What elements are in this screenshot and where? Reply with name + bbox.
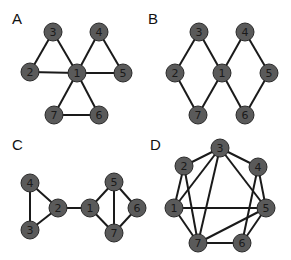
graph-node: 2 (175, 157, 193, 175)
graph-node: 5 (257, 199, 275, 217)
node-label: 6 (134, 202, 141, 215)
graph-node: 3 (211, 139, 229, 157)
graph-node: 2 (166, 64, 184, 82)
node-label: 1 (171, 202, 178, 215)
panel-label: D (150, 136, 161, 153)
node-label: 4 (242, 26, 249, 39)
graph-node: 1 (81, 199, 99, 217)
node-label: 6 (96, 109, 103, 122)
graph-node: 7 (189, 234, 207, 252)
graph-node: 3 (44, 23, 62, 41)
graph-node: 2 (49, 199, 67, 217)
graph-node: 6 (233, 234, 251, 252)
graph-node: 2 (21, 63, 39, 81)
graph-diagram-canvas: A1234567 B1234567 C1234567 D1234567 (0, 0, 291, 260)
node-label: 5 (120, 67, 127, 80)
node-label: 3 (50, 26, 57, 39)
graph-node: 6 (236, 106, 254, 124)
graph-node: 5 (105, 173, 123, 191)
graph-node: 3 (21, 221, 39, 239)
node-label: 6 (242, 109, 249, 122)
node-label: 4 (27, 177, 34, 190)
panel-label: A (12, 10, 22, 27)
node-label: 4 (255, 161, 262, 174)
node-label: 3 (196, 26, 203, 39)
node-label: 3 (217, 142, 224, 155)
graph-edge (198, 208, 266, 243)
node-label: 7 (111, 227, 118, 240)
node-label: 5 (266, 67, 273, 80)
node-label: 6 (239, 237, 246, 250)
graph-node: 7 (105, 224, 123, 242)
graph-node: 1 (68, 64, 86, 82)
node-label: 3 (27, 224, 34, 237)
node-label: 1 (87, 202, 94, 215)
node-label: 1 (74, 67, 81, 80)
graph-node: 6 (90, 106, 108, 124)
graph-node: 4 (236, 23, 254, 41)
node-label: 5 (111, 176, 118, 189)
node-label: 7 (51, 109, 58, 122)
panel-label: B (148, 10, 158, 27)
panel-c: C1234567 (12, 136, 146, 242)
panel-a: A1234567 (12, 10, 132, 124)
panel-label: C (12, 136, 23, 153)
graph-node: 6 (128, 199, 146, 217)
graph-node: 4 (21, 174, 39, 192)
graph-node: 4 (249, 158, 267, 176)
node-label: 2 (172, 67, 179, 80)
panel-d: D1234567 (150, 136, 275, 252)
graph-edge (220, 148, 266, 208)
graph-node: 1 (165, 199, 183, 217)
graph-node: 4 (90, 23, 108, 41)
node-label: 7 (195, 237, 202, 250)
node-label: 5 (263, 202, 270, 215)
graph-node: 7 (45, 106, 63, 124)
node-label: 7 (195, 109, 202, 122)
node-label: 1 (219, 67, 226, 80)
node-label: 4 (96, 26, 103, 39)
graph-node: 7 (189, 106, 207, 124)
node-label: 2 (27, 66, 34, 79)
node-label: 2 (55, 202, 62, 215)
node-label: 2 (181, 160, 188, 173)
graph-node: 1 (213, 64, 231, 82)
graph-node: 3 (190, 23, 208, 41)
graph-node: 5 (260, 64, 278, 82)
graph-node: 5 (114, 64, 132, 82)
panel-b: B1234567 (148, 10, 278, 124)
